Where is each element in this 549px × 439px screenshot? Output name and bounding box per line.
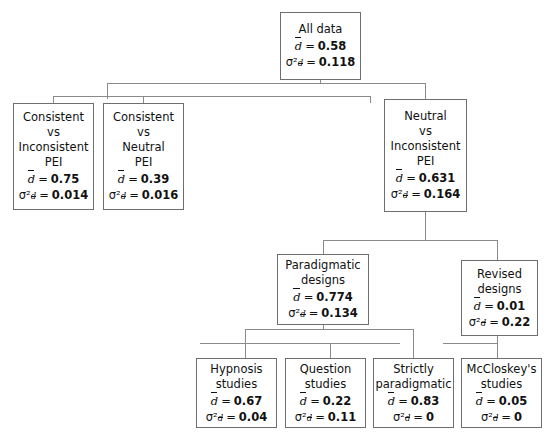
mean-symbol: d — [293, 288, 300, 305]
equals-sign: = — [218, 393, 234, 409]
node-strictly-paradigmatic[interactable]: Strictly paradigmatic d=0.83 σ²d=0 — [373, 358, 454, 428]
variance-subscript: d — [218, 417, 223, 418]
mean-value: 0.83 — [411, 393, 439, 409]
node-neutral-vs-inconsistent-pei[interactable]: Neutral vs Inconsistent PEI d=0.631 σ²d=… — [384, 99, 467, 212]
equals-sign: = — [408, 186, 424, 202]
node-paradigmatic-designs[interactable]: Paradigmatic designs d=0.774 σ²d=0.134 — [277, 254, 369, 325]
variance-subscript: d — [403, 194, 408, 195]
connector-mccloskey-bar — [443, 343, 498, 344]
node-label-line: Inconsistent — [19, 140, 89, 155]
node-label-line: studies — [481, 377, 522, 392]
mean-value: 0.75 — [51, 171, 79, 187]
node-label-line: paradigmatic — [375, 377, 451, 392]
node-revised-designs[interactable]: Revised designs d=0.01 σ²d=0.22 — [461, 260, 538, 336]
node-variance-stat: σ²d=0.118 — [286, 54, 355, 70]
equals-sign: = — [125, 171, 141, 187]
connector-paradigmatic-drop — [323, 240, 324, 254]
node-variance-stat: σ²d=0.014 — [19, 187, 88, 203]
connector-strictly-drop — [413, 329, 414, 358]
node-mean-stat: d=0.58 — [295, 37, 346, 54]
node-mean-stat: d=0.39 — [118, 170, 169, 187]
variance-value: 0.11 — [328, 409, 356, 425]
node-variance-stat: σ²d=0.134 — [288, 305, 357, 321]
variance-symbol: σ² — [288, 305, 300, 321]
node-label-line: PEI — [135, 155, 153, 170]
meta-analysis-tree-diagram: All data d=0.58 σ²d=0.118 Consistent vs … — [0, 0, 549, 439]
connector-mccloskey-drop — [497, 343, 498, 358]
node-variance-stat: σ²d=0.164 — [391, 186, 460, 202]
node-label-line: vs — [47, 125, 60, 140]
node-label-line: Consistent — [23, 110, 84, 125]
node-mean-stat: d=0.05 — [476, 392, 527, 409]
equals-sign: = — [223, 409, 239, 425]
node-label-line: studies — [305, 377, 346, 392]
variance-value: 0.118 — [319, 54, 355, 70]
variance-symbol: σ² — [391, 186, 403, 202]
node-mccloskeys-studies[interactable]: McCloskey's studies d=0.05 σ²d=0 — [461, 358, 542, 428]
equals-sign: = — [36, 187, 52, 203]
node-question-studies[interactable]: Question studies d=0.22 σ²d=0.11 — [285, 358, 366, 428]
variance-value: 0.016 — [142, 187, 178, 203]
node-label-line: McCloskey's — [467, 362, 537, 377]
equals-sign: = — [126, 187, 142, 203]
mean-symbol: d — [388, 392, 395, 409]
variance-value: 0.164 — [424, 186, 460, 202]
node-label-line: vs — [419, 124, 432, 139]
node-label-line: PEI — [45, 155, 63, 170]
node-mean-stat: d=0.75 — [28, 170, 79, 187]
equals-sign: = — [307, 393, 323, 409]
node-label-line: designs — [477, 282, 521, 297]
mean-value: 0.01 — [497, 298, 525, 314]
variance-symbol: σ² — [469, 314, 481, 330]
node-label-line: Inconsistent — [391, 139, 461, 154]
mean-symbol: d — [476, 392, 483, 409]
variance-subscript: d — [121, 195, 126, 196]
variance-subscript: d — [493, 417, 498, 418]
connector-revised-drop — [497, 240, 498, 260]
node-label-line: Hypnosis — [210, 362, 262, 377]
variance-value: 0.04 — [239, 409, 267, 425]
mean-value: 0.39 — [141, 171, 169, 187]
equals-sign: = — [35, 171, 51, 187]
connector-level3-inner-bar — [200, 343, 400, 344]
node-hypnosis-studies[interactable]: Hypnosis studies d=0.67 σ²d=0.04 — [196, 358, 277, 428]
variance-value: 0.134 — [321, 305, 357, 321]
mean-value: 0.631 — [419, 170, 455, 186]
node-variance-stat: σ²d=0.11 — [295, 409, 356, 425]
node-label-line: Revised — [477, 267, 522, 282]
equals-sign: = — [498, 409, 514, 425]
variance-symbol: σ² — [206, 409, 218, 425]
equals-sign: = — [481, 298, 497, 314]
node-mean-stat: d=0.83 — [388, 392, 439, 409]
variance-subscript: d — [307, 417, 312, 418]
equals-sign: = — [306, 305, 322, 321]
node-mean-stat: d=0.631 — [396, 169, 455, 186]
node-variance-stat: σ²d=0.22 — [469, 314, 530, 330]
variance-subscript: d — [300, 313, 305, 314]
mean-symbol: d — [211, 392, 218, 409]
node-mean-stat: d=0.774 — [293, 288, 352, 305]
mean-value: 0.774 — [316, 289, 352, 305]
variance-subscript: d — [31, 195, 36, 196]
mean-value: 0.67 — [234, 393, 262, 409]
equals-sign: = — [403, 170, 419, 186]
mean-symbol: d — [396, 169, 403, 186]
node-variance-stat: σ²d=0 — [481, 409, 522, 425]
connector-consistent-bar-right-end — [370, 96, 371, 103]
variance-symbol: σ² — [393, 409, 405, 425]
mean-symbol: d — [118, 170, 125, 187]
node-variance-stat: σ²d=0 — [393, 409, 434, 425]
node-consistent-vs-inconsistent-pei[interactable]: Consistent vs Inconsistent PEI d=0.75 σ²… — [13, 103, 94, 210]
connector-question-drop — [330, 343, 331, 358]
mean-symbol: d — [474, 297, 481, 314]
equals-sign: = — [312, 409, 328, 425]
node-consistent-vs-neutral-pei[interactable]: Consistent vs Neutral PEI d=0.39 σ²d=0.0… — [103, 103, 184, 210]
equals-sign: = — [483, 393, 499, 409]
connector-level2-bar — [323, 240, 498, 241]
connector-level1-bar — [107, 83, 426, 84]
node-label-line: All data — [299, 22, 343, 37]
equals-sign: = — [486, 314, 502, 330]
mean-value: 0.22 — [323, 393, 351, 409]
node-mean-stat: d=0.67 — [211, 392, 262, 409]
node-all-data[interactable]: All data d=0.58 σ²d=0.118 — [280, 12, 361, 80]
